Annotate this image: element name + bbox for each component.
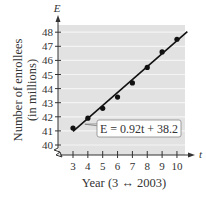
- y-tick-label: 44: [42, 83, 54, 95]
- y-tick-label: 41: [42, 125, 53, 137]
- y-tick-label: 43: [42, 97, 54, 109]
- y-tick-label: 45: [42, 69, 54, 81]
- data-point: [85, 116, 90, 121]
- y-tick-label: 40: [42, 139, 54, 151]
- equation-text: E = 0.92t + 38.2: [100, 122, 178, 136]
- x-tick-label: 6: [115, 160, 121, 172]
- data-point: [174, 37, 179, 42]
- chart: 404142434445464748 345678910 E = 0.92t +…: [0, 0, 206, 198]
- data-point: [145, 65, 150, 70]
- data-point: [130, 80, 135, 85]
- y-axis-title-line1: Number of enrollees: [11, 38, 25, 141]
- data-point: [100, 106, 105, 111]
- y-tick-label: 47: [42, 40, 54, 52]
- x-axis-title: Year (3 ↔ 2003): [82, 176, 167, 190]
- data-point: [115, 94, 120, 99]
- x-tick-label: 10: [171, 160, 183, 172]
- y-tick-label: 46: [42, 54, 54, 66]
- equation-label: E = 0.92t + 38.2: [85, 120, 181, 137]
- x-tick-label: 8: [145, 160, 151, 172]
- x-tick-label: 7: [130, 160, 136, 172]
- y-tick-label: 42: [42, 111, 53, 123]
- y-tick-label: 48: [42, 26, 54, 38]
- x-tick-label: 9: [159, 160, 165, 172]
- x-tick-label: 5: [100, 160, 106, 172]
- x-axis-name: t: [199, 148, 203, 160]
- data-point: [160, 49, 165, 54]
- x-tick-label: 3: [70, 160, 76, 172]
- y-axis-name: E: [53, 2, 61, 14]
- y-axis-title-line2: (in millions): [25, 59, 39, 121]
- data-point: [70, 125, 75, 130]
- x-tick-label: 4: [85, 160, 91, 172]
